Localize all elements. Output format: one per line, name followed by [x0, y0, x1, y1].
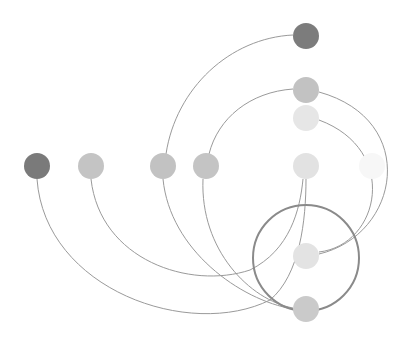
node-layer: [24, 23, 385, 322]
node-n2: [78, 153, 104, 179]
node-top3: [293, 105, 319, 131]
arc-network-diagram: [0, 0, 412, 343]
node-top1: [293, 23, 319, 49]
node-n5: [293, 153, 319, 179]
node-n4: [193, 153, 219, 179]
node-top2: [293, 77, 319, 103]
node-n6: [359, 153, 385, 179]
node-n3: [150, 153, 176, 179]
edge-top3-bot1: [319, 120, 373, 252]
edge-n2-n5: [91, 179, 303, 276]
diagram-canvas: [0, 0, 412, 343]
edge-n3-bot2: [163, 179, 293, 309]
edge-n4-top2: [209, 89, 293, 154]
node-n1: [24, 153, 50, 179]
edge-n3-top1: [166, 35, 293, 154]
node-bot2: [293, 296, 319, 322]
node-bot1: [293, 243, 319, 269]
edge-n4-bot2: [203, 179, 293, 308]
